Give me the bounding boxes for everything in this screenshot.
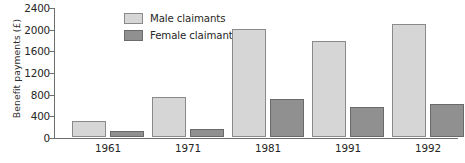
y-axis-tick-mark — [49, 51, 54, 52]
bar-female-1991 — [350, 107, 384, 137]
y-tick-label: 1600 — [16, 46, 50, 56]
bar-group-1991 — [310, 7, 386, 137]
y-axis-tick-mark — [49, 138, 54, 139]
bar-male-1981 — [232, 29, 266, 137]
x-tick-label-1992: 1992 — [390, 142, 465, 154]
x-tick-label-1991: 1991 — [310, 142, 386, 154]
y-axis-tick-mark — [49, 73, 54, 74]
bar-group-1981 — [230, 7, 306, 137]
bar-female-1961 — [110, 131, 144, 138]
y-axis-tick-mark — [49, 116, 54, 117]
y-tick-label: 800 — [16, 90, 50, 100]
bar-male-1992 — [392, 24, 426, 137]
x-tick-label-1981: 1981 — [230, 142, 306, 154]
y-axis-line — [54, 8, 55, 139]
bar-male-1961 — [72, 121, 106, 137]
y-axis-tick-mark — [49, 95, 54, 96]
bar-female-1981 — [270, 99, 304, 137]
y-tick-label: 0 — [16, 133, 50, 143]
y-tick-label: 2400 — [16, 3, 50, 13]
y-axis-tick-mark — [49, 30, 54, 31]
y-tick-label: 2000 — [16, 25, 50, 35]
bar-group-1992 — [390, 7, 465, 137]
x-tick-label-1971: 1971 — [150, 142, 226, 154]
x-axis-line — [54, 138, 458, 139]
y-tick-label: 400 — [16, 111, 50, 121]
bar-male-1991 — [312, 41, 346, 137]
bar-female-1992 — [430, 104, 464, 137]
y-tick-label: 1200 — [16, 68, 50, 78]
bar-group-1971 — [150, 7, 226, 137]
y-axis-tick-labels: 2400 2000 1600 1200 800 400 0 — [16, 0, 50, 163]
y-axis-tick-mark — [49, 8, 54, 9]
bar-female-1971 — [190, 129, 224, 137]
bar-group-1961 — [70, 7, 146, 137]
bar-male-1971 — [152, 97, 186, 137]
x-tick-label-1961: 1961 — [70, 142, 146, 154]
bar-chart-figure: Benefit payments (£) 2400 2000 1600 1200… — [0, 0, 465, 163]
plot-area: Male claimants Female claimants — [54, 8, 458, 138]
